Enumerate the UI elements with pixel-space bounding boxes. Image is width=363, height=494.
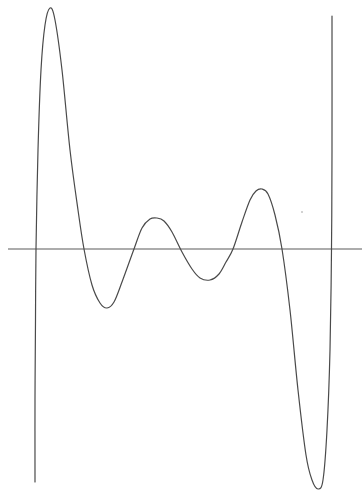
polynomial-curve	[35, 8, 332, 489]
plot-canvas	[0, 0, 363, 494]
stray-dot	[301, 211, 303, 213]
polynomial-plot	[0, 0, 363, 494]
